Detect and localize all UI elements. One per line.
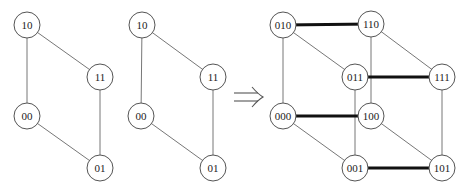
node-cube-101: 101	[429, 155, 455, 181]
node-label: 00	[136, 110, 148, 122]
node-square-b-10: 10	[129, 12, 155, 38]
node-square-a-00: 00	[14, 103, 40, 129]
node-label: 000	[275, 110, 292, 122]
node-label: 101	[434, 162, 451, 174]
node-label: 01	[95, 162, 106, 174]
hypercube-diagram: 1011000110110001010110011111000100001101	[0, 0, 470, 192]
node-cube-011: 011	[342, 64, 368, 90]
edge-square-b-10-00	[141, 25, 142, 116]
node-label: 011	[347, 71, 363, 83]
nodes-layer: 1011000110110001010110011111000100001101	[14, 11, 455, 181]
node-label: 010	[275, 19, 292, 31]
node-cube-100: 100	[358, 103, 384, 129]
node-label: 00	[22, 110, 34, 122]
node-label: 11	[208, 71, 219, 83]
node-cube-110: 110	[358, 11, 384, 37]
node-label: 10	[22, 19, 34, 31]
node-square-a-01: 01	[87, 155, 113, 181]
node-label: 001	[347, 162, 364, 174]
node-cube-111: 111	[429, 64, 455, 90]
node-square-b-11: 11	[200, 64, 226, 90]
node-label: 01	[208, 162, 219, 174]
edges-layer	[27, 24, 442, 168]
node-cube-000: 000	[270, 103, 296, 129]
node-label: 10	[137, 19, 149, 31]
implies-arrow-icon	[234, 87, 263, 107]
node-cube-001: 001	[342, 155, 368, 181]
node-label: 100	[363, 110, 380, 122]
node-label: 111	[434, 71, 450, 83]
node-square-b-00: 00	[128, 103, 154, 129]
node-square-a-11: 11	[87, 64, 113, 90]
node-square-a-10: 10	[14, 12, 40, 38]
node-cube-010: 010	[270, 12, 296, 38]
node-square-b-01: 01	[200, 155, 226, 181]
node-label: 110	[363, 18, 380, 30]
node-label: 11	[95, 71, 106, 83]
